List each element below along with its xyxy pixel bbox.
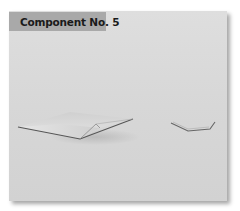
- large-folded-shape: [18, 112, 140, 145]
- small-bent-line-shape: [171, 122, 215, 131]
- shapes-canvas: [0, 0, 240, 211]
